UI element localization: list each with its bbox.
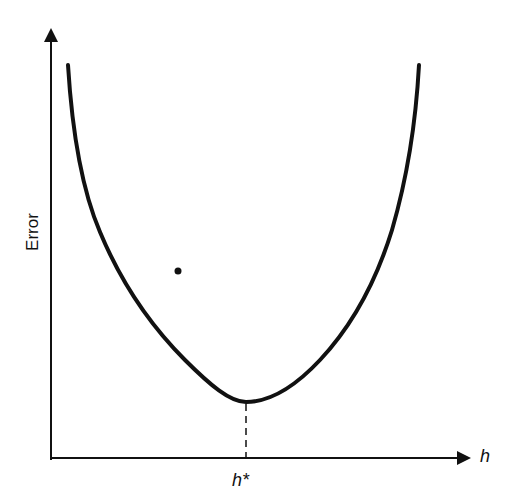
y-axis-label: Error: [23, 213, 43, 251]
h-star-tick-label: h*: [232, 470, 249, 491]
error-vs-h-chart: [0, 0, 512, 499]
y-axis-arrow-icon: [44, 28, 58, 42]
data-point: [175, 268, 182, 275]
x-axis-label: h: [480, 446, 490, 467]
error-curve: [68, 65, 419, 402]
x-axis-arrow-icon: [457, 451, 471, 465]
